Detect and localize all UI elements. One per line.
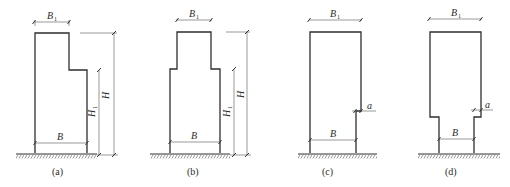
label-b-d: B	[452, 127, 458, 138]
ground-c	[298, 154, 377, 159]
dimension-b1-d: B 1	[428, 7, 483, 21]
label-b-c: B	[330, 128, 336, 139]
ground-a	[16, 154, 97, 159]
label-b1-c: B	[330, 8, 336, 19]
caption-d: (d)	[445, 166, 457, 178]
label-a-d: a	[485, 99, 490, 110]
ground-d	[418, 154, 500, 159]
panel-b: B 1 B H H 1 (b)	[150, 8, 251, 178]
dimension-a-d: a	[471, 99, 493, 112]
diagram-canvas: B 1 B H H 1 (a)	[0, 0, 510, 187]
label-b1-d: B	[451, 7, 457, 18]
label-b1-a: B	[47, 10, 53, 21]
label-b1-sub-a: 1	[54, 16, 57, 22]
caption-b: (b)	[187, 166, 199, 178]
dimension-b-a: B	[34, 131, 89, 145]
label-b1-sub-c: 1	[337, 14, 340, 20]
label-h1-sub-b: 1	[227, 106, 233, 109]
label-h1-sub-a: 1	[92, 106, 98, 109]
dimension-h1-a: H 1	[86, 68, 101, 157]
label-b-a: B	[57, 131, 63, 142]
label-h-b: H	[235, 90, 246, 99]
ground-b	[150, 154, 230, 159]
label-b1-sub-b: 1	[196, 14, 199, 20]
label-a-c: a	[367, 100, 372, 111]
dimension-h1-b: H 1	[221, 67, 236, 157]
dimension-b-b: B	[169, 130, 222, 144]
label-b1-b: B	[189, 8, 195, 19]
dimension-h-b: H	[226, 30, 251, 157]
dimension-b1-b: B 1	[176, 8, 213, 22]
label-h-a: H	[100, 91, 111, 100]
label-b1-sub-d: 1	[458, 13, 461, 19]
dimension-b1-a: B 1	[33, 10, 71, 26]
dimension-b-d: B	[438, 127, 476, 141]
caption-c: (c)	[322, 166, 333, 178]
dimension-b1-c: B 1	[308, 8, 363, 22]
dimension-a-c: a	[352, 100, 376, 113]
panel-a: B 1 B H H 1 (a)	[16, 10, 118, 178]
label-h1-a: H	[86, 109, 97, 118]
panel-c: B 1 B a (c)	[298, 8, 377, 178]
label-h1-b: H	[221, 109, 232, 118]
panel-d: B 1 B a (d)	[418, 7, 500, 178]
label-b-b: B	[191, 130, 197, 141]
dimension-b-c: B	[309, 128, 358, 142]
caption-a: (a)	[52, 166, 63, 178]
